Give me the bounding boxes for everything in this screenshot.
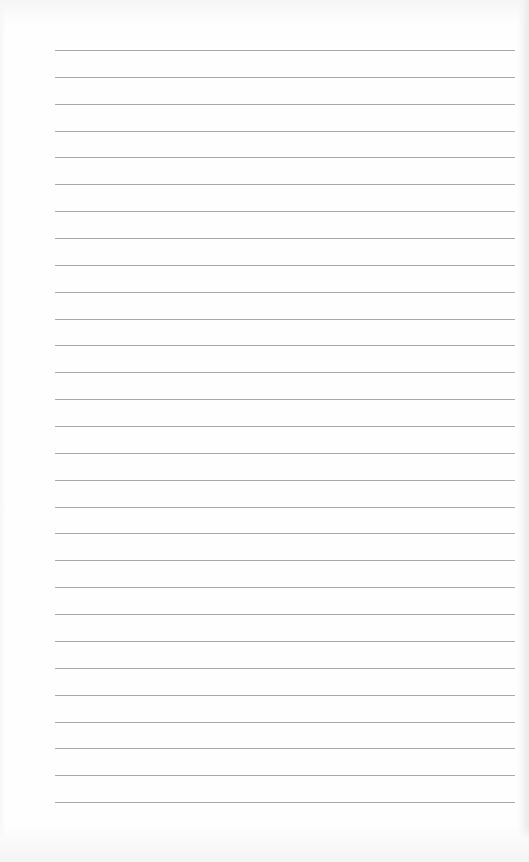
page-top-shadow: [0, 0, 529, 30]
ruled-line: [55, 77, 515, 78]
ruled-line: [55, 184, 515, 185]
ruled-line: [55, 131, 515, 132]
ruled-line: [55, 50, 515, 51]
ruled-line: [55, 399, 515, 400]
ruled-line: [55, 265, 515, 266]
page-right-edge-shadow: [517, 0, 529, 862]
ruled-line: [55, 641, 515, 642]
ruled-line: [55, 426, 515, 427]
ruled-line: [55, 238, 515, 239]
ruled-line: [55, 802, 515, 803]
ruled-line: [55, 104, 515, 105]
ruled-line: [55, 668, 515, 669]
ruled-line: [55, 722, 515, 723]
ruled-line: [55, 507, 515, 508]
ruled-line: [55, 560, 515, 561]
ruled-line: [55, 157, 515, 158]
ruled-line: [55, 211, 515, 212]
ruled-line: [55, 345, 515, 346]
ruled-line: [55, 372, 515, 373]
ruled-line: [55, 695, 515, 696]
ruled-line: [55, 775, 515, 776]
page-left-shadow: [0, 0, 6, 862]
ruled-line: [55, 480, 515, 481]
ruled-line: [55, 748, 515, 749]
ruled-line: [55, 453, 515, 454]
ruled-line: [55, 614, 515, 615]
lined-paper-page: [0, 0, 529, 862]
ruled-line: [55, 587, 515, 588]
page-bottom-shadow: [0, 826, 529, 862]
ruled-line: [55, 533, 515, 534]
ruled-line: [55, 319, 515, 320]
ruled-line: [55, 292, 515, 293]
